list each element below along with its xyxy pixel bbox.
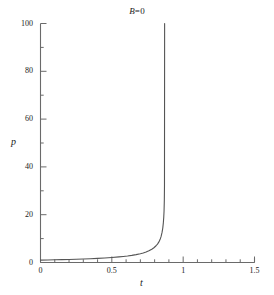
series-group (41, 24, 165, 261)
y-tick-label: 80 (7, 67, 33, 75)
x-tick-label: 1.5 (242, 267, 268, 275)
axes-group (41, 24, 255, 263)
series-line (41, 24, 165, 261)
x-tick-label: 1 (170, 267, 196, 275)
y-tick-label: 20 (7, 211, 33, 219)
y-tick-label: 40 (7, 163, 33, 171)
y-tick-label: 100 (7, 20, 33, 28)
x-tick-label: 0 (28, 267, 54, 275)
y-tick-label: 60 (7, 115, 33, 123)
y-tick-label: 0 (7, 259, 33, 267)
x-tick-label: 0.5 (99, 267, 125, 275)
chart-figure: B=0 p t 00.511.5020406080100 (0, 0, 274, 295)
chart-canvas (0, 0, 274, 295)
